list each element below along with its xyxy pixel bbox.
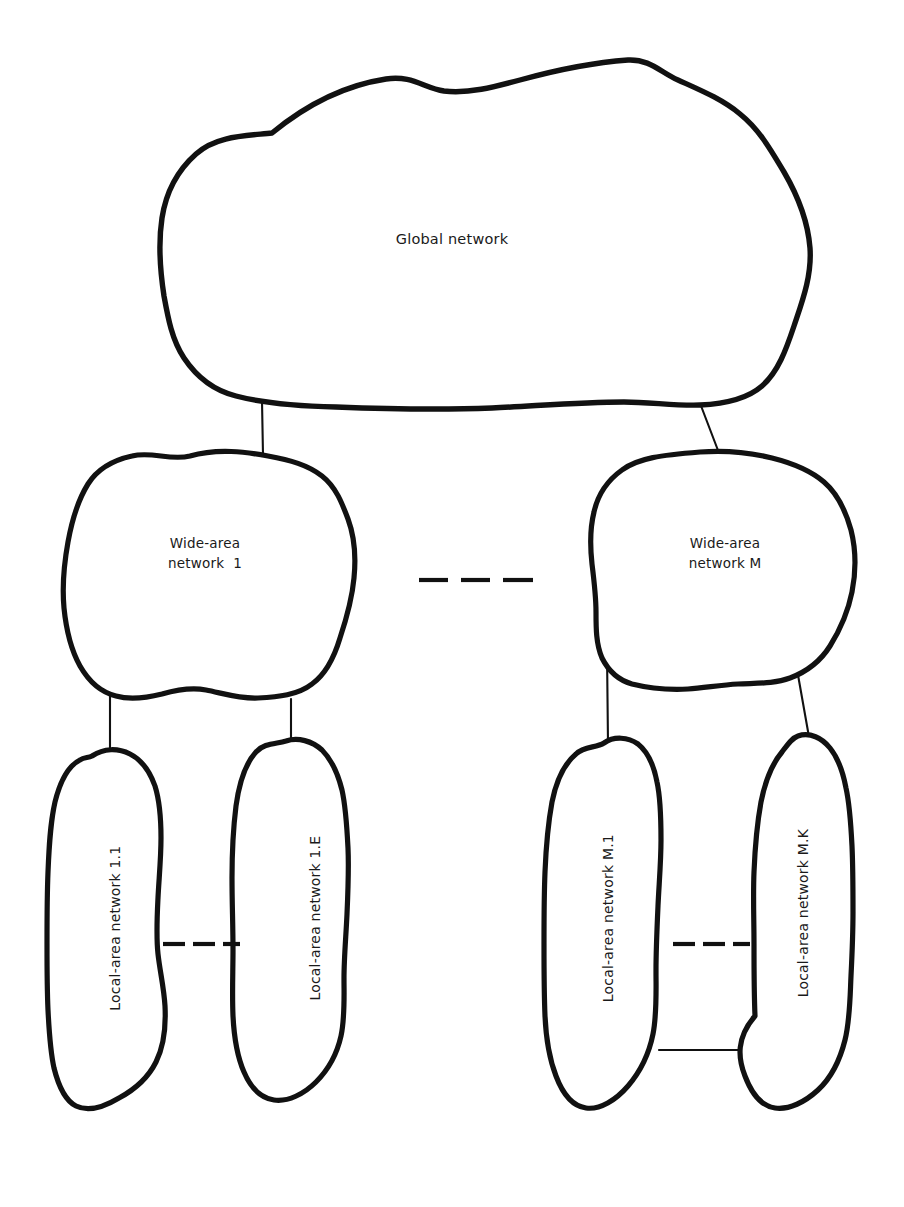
global-network-cloud[interactable] xyxy=(160,60,810,409)
lan-1-e-blob[interactable] xyxy=(232,739,348,1100)
wide-area-network-m-cloud[interactable] xyxy=(591,451,855,689)
network-diagram-canvas: Global network Wide-areanetwork 1 Wide-a… xyxy=(0,0,904,1207)
lan-1-1-blob[interactable] xyxy=(47,750,165,1109)
wide-area-network-1-cloud[interactable] xyxy=(63,451,355,698)
lan-m-1-blob[interactable] xyxy=(544,738,661,1108)
link-global-to-wan-1 xyxy=(262,401,263,455)
lan-m-k-blob[interactable] xyxy=(740,735,853,1109)
diagram-vector-layer xyxy=(0,0,904,1207)
